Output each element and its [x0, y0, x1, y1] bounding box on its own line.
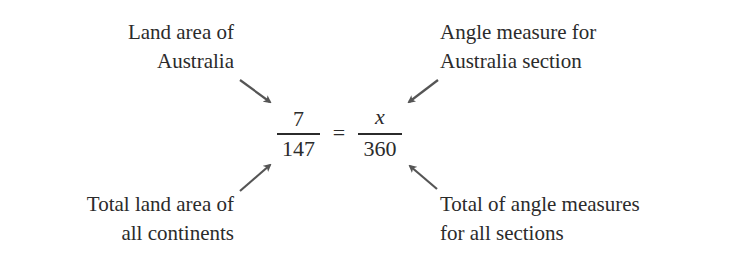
arrow-bottom-left-icon	[240, 165, 270, 191]
arrow-top-right-icon	[409, 80, 438, 102]
arrow-bottom-right-icon	[410, 166, 437, 189]
arrow-top-left-icon	[240, 80, 270, 102]
arrows	[0, 0, 738, 271]
